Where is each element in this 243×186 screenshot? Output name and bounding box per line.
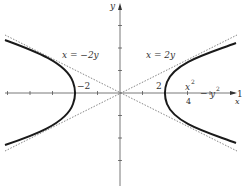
tick-label-2: 2 — [156, 81, 162, 91]
tick-label-neg-2: −2 — [77, 81, 90, 91]
equation-rhs: 1 — [237, 89, 243, 99]
equation-denominator: 4 — [186, 97, 191, 106]
hyperbola-chart: y x x = −2y x = 2y −2 2 x 2 4 − y 2 1 — [0, 0, 243, 186]
x-axis-arrow-icon — [230, 91, 237, 95]
asymptote-left-label: x = −2y — [62, 50, 100, 60]
y-axis-arrow-icon — [118, 3, 122, 10]
y-axis-label: y — [109, 1, 116, 11]
chart-svg: y x x = −2y x = 2y −2 2 x 2 4 − y 2 1 — [0, 0, 243, 186]
equation-x-exp: 2 — [191, 78, 195, 85]
asymptote-right-label: x = 2y — [146, 50, 176, 60]
equation-x: x — [185, 82, 190, 92]
equation-y: y — [209, 89, 216, 99]
equation-y-exp: 2 — [216, 85, 220, 92]
equation-minus: − — [200, 88, 208, 98]
